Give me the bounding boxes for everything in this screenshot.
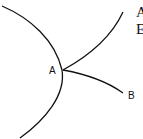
point-b-label: B <box>128 90 135 101</box>
cropped-text-2: E <box>136 21 143 37</box>
point-a-label: A <box>49 65 56 76</box>
lower-branch-curve <box>63 70 123 93</box>
branching-curve-diagram: A B A E <box>0 0 143 139</box>
upper-branch-curve <box>63 12 123 70</box>
cropped-text-1: A <box>136 4 143 20</box>
